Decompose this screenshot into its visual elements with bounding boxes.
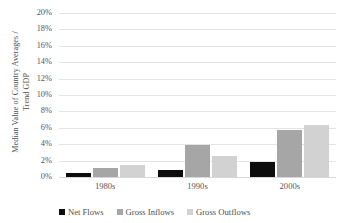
bar-net-flows-1980s[interactable] — [66, 173, 91, 177]
y-axis-tick-label: 14% — [6, 58, 52, 66]
y-axis-tick-label: 12% — [6, 75, 52, 83]
bar-gross-inflows-2000s[interactable] — [277, 130, 302, 177]
y-axis-tick-label: 20% — [6, 9, 52, 17]
legend-label: Gross Inflows — [126, 207, 174, 217]
y-axis-tick-label: 2% — [6, 157, 52, 165]
y-axis-tick-label: 4% — [6, 140, 52, 148]
y-axis-tick-label: 10% — [6, 91, 52, 99]
bar-gross-outflows-1980s[interactable] — [120, 165, 145, 177]
gridline-0% — [59, 177, 336, 178]
x-axis-tick-label-2000s: 2000s — [244, 180, 336, 194]
legend-swatch-icon — [117, 209, 123, 215]
bar-gross-inflows-1980s[interactable] — [93, 168, 118, 177]
x-axis-tick-label-1980s: 1980s — [59, 180, 151, 194]
bar-gross-inflows-1990s[interactable] — [185, 145, 210, 177]
y-axis-tick-label: 6% — [6, 124, 52, 132]
bar-groups — [59, 13, 336, 177]
bar-gross-outflows-1990s[interactable] — [212, 156, 237, 177]
x-axis-tick-label-1990s: 1990s — [151, 180, 243, 194]
legend-item-gross-outflows[interactable]: Gross Outflows — [187, 207, 250, 217]
legend-swatch-icon — [59, 209, 65, 215]
y-axis-tick-label: 16% — [6, 42, 52, 50]
x-axis-tick-labels: 1980s1990s2000s — [59, 180, 336, 194]
chart-legend: Net FlowsGross InflowsGross Outflows — [59, 205, 336, 219]
bar-gross-outflows-2000s[interactable] — [304, 125, 329, 177]
legend-label: Net Flows — [68, 207, 104, 217]
legend-item-net-flows[interactable]: Net Flows — [59, 207, 104, 217]
bar-net-flows-2000s[interactable] — [250, 162, 275, 177]
y-axis-tick-label: 18% — [6, 25, 52, 33]
legend-swatch-icon — [187, 209, 193, 215]
bar-chart: Median Value of Country Averages / Trend… — [0, 0, 340, 223]
y-axis-tick-label: 0% — [6, 173, 52, 181]
y-axis-tick-label: 8% — [6, 107, 52, 115]
bar-group-1980s — [59, 13, 151, 177]
plot-wrapper: 20%18%16%14%12%10%8%6%4%2%0% — [59, 8, 336, 178]
legend-label: Gross Outflows — [196, 207, 250, 217]
bar-group-1990s — [151, 13, 243, 177]
bar-group-2000s — [244, 13, 336, 177]
legend-item-gross-inflows[interactable]: Gross Inflows — [117, 207, 174, 217]
chart-title-clipped — [0, 0, 340, 7]
bar-net-flows-1990s[interactable] — [158, 170, 183, 177]
